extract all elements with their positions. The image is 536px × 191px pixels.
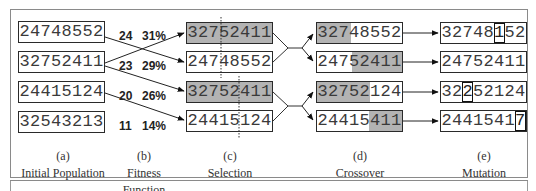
selection-arrow-3-to-4	[105, 93, 184, 120]
crossover-connector-2	[273, 92, 288, 121]
crossover-arrow-2a	[302, 92, 313, 106]
selection-arrow-2-to-3	[105, 66, 184, 91]
crossover-arrow-2b	[302, 106, 313, 120]
crossover-arrow-1b	[302, 48, 313, 61]
crossover-arrow-1a	[302, 34, 313, 48]
crossover-connector-1	[273, 33, 288, 62]
connector-layer	[0, 0, 536, 191]
